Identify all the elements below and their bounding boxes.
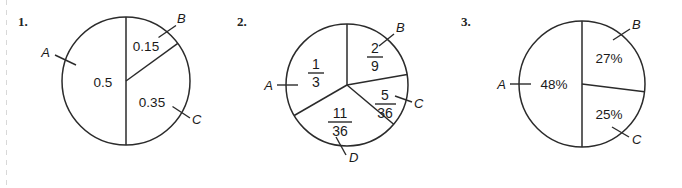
problem-3: 3. B C A 27% 25% 48%	[454, 0, 682, 188]
pie-2-value-c-denominator: 36	[377, 105, 393, 121]
pie-1-letter-c: C	[192, 112, 202, 127]
pie-2-value-d-numerator: 11	[333, 105, 348, 121]
problem-2: 2. B C D A 2	[228, 0, 454, 188]
pie-2-value-b-denominator: 9	[371, 58, 379, 74]
worksheet-page: 1. B C A 0.15 0.35 0.5 2.	[0, 0, 682, 188]
pie-2-value-c-numerator: 5	[381, 87, 389, 103]
pie-3-value-c: 25%	[595, 107, 622, 122]
pie-2-letter-a: A	[263, 78, 273, 93]
pie-3-letter-b: B	[632, 17, 641, 32]
pie-3-letter-c: C	[632, 132, 642, 147]
pie-chart-2: B C D A 2 9 5 36 11 36	[228, 0, 454, 188]
pie-2-value-d-denominator: 36	[332, 123, 348, 139]
pie-1-value-a: 0.5	[94, 75, 113, 90]
pie-1-letter-b: B	[177, 11, 186, 26]
pie-1-value-c: 0.35	[139, 95, 165, 110]
pie-chart-3: B C A 27% 25% 48%	[454, 0, 682, 188]
pie-2-value-a-numerator: 1	[312, 56, 320, 72]
pie-1-value-b: 0.15	[133, 39, 159, 54]
pie-3-letter-a: A	[496, 77, 506, 92]
pie-2-value-a-denominator: 3	[312, 74, 320, 90]
pie-3-value-a: 48%	[540, 77, 567, 92]
pie-2-value-b-numerator: 2	[371, 40, 379, 56]
problem-1: 1. B C A 0.15 0.35 0.5	[0, 0, 228, 188]
pie-2-letter-b: B	[396, 20, 405, 35]
pie-2-letter-d: D	[349, 150, 358, 165]
pie-2-letter-c: C	[414, 96, 424, 111]
pie-3-value-b: 27%	[595, 51, 622, 66]
pie-1-letter-a: A	[40, 45, 50, 60]
pie-chart-1: B C A 0.15 0.35 0.5	[0, 0, 228, 188]
